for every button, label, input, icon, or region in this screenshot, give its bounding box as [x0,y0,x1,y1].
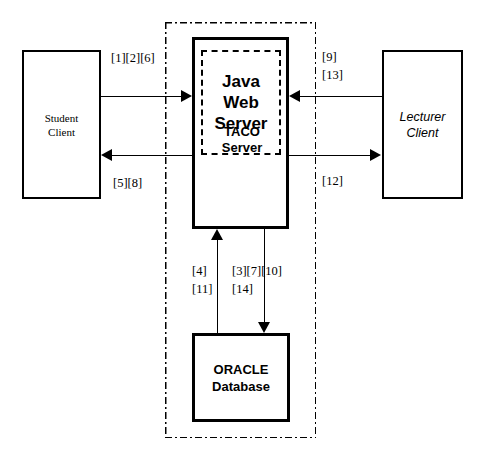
arrowhead-student-to-server [181,90,192,102]
taco-server-label: TACO Server [0,124,484,156]
arrowhead-server-to-db [258,322,270,333]
flow-label-server-to-lecturer: [12] [322,174,343,189]
flow-label-server-to-db-1: [3][7][10] [232,264,282,279]
flow-label-db-to-server-1: [4] [192,264,207,279]
flow-line-db-to-server [217,240,218,333]
flow-line-lecturer-to-server [300,96,382,97]
flow-line-student-to-server [101,96,182,97]
flow-label-server-to-db-2: [14] [232,282,253,297]
oracle-database-node[interactable]: ORACLE Database [192,333,290,422]
arrowhead-db-to-server [211,229,223,240]
flow-label-lecturer-to-server-1: [9] [322,50,337,65]
flow-label-server-to-student: [5][8] [113,176,142,191]
flow-label-student-to-server: [1][2][6] [111,51,155,66]
flow-label-lecturer-to-server-2: [13] [322,68,343,83]
oracle-database-label: ORACLE Database [212,361,270,395]
flow-label-db-to-server-2: [11] [192,282,212,297]
arrowhead-lecturer-to-server [289,90,300,102]
diagram-canvas: Student Client Lecturer Client TACO Serv… [0,0,484,457]
